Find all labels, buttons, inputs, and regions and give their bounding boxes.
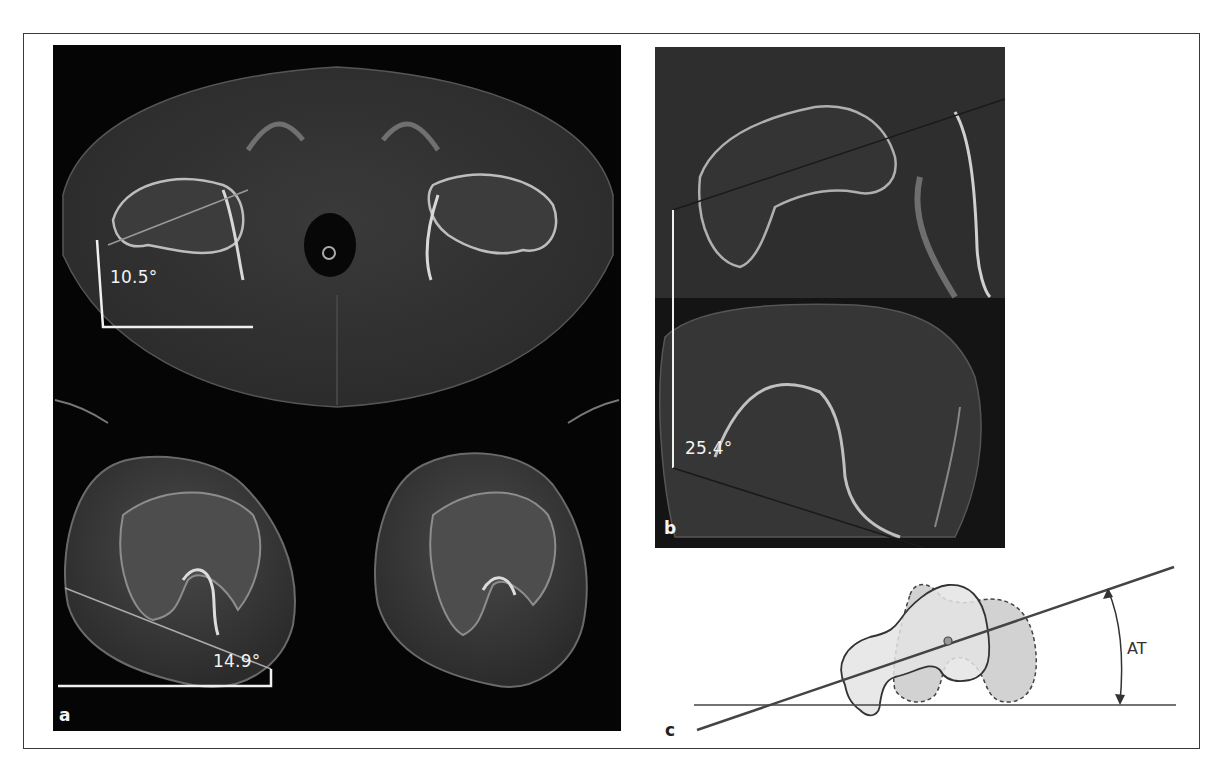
antetorsion-arc	[1108, 590, 1122, 703]
panel-label-c: c	[665, 720, 675, 740]
panel-a-ct-hips-knees: 10.5° 14.9° a	[53, 45, 621, 731]
panel-label-a: a	[59, 705, 70, 725]
ct-scan-image	[53, 45, 621, 731]
panel-b-superimposed-ct: 25.4° b	[655, 47, 1005, 548]
panel-label-b: b	[664, 518, 676, 538]
antetorsion-label: AT	[1127, 639, 1146, 658]
antetorsion-diagram	[650, 555, 1190, 740]
antetorsion-angle-label: 25.4°	[685, 438, 732, 458]
panel-c-antetorsion-schematic: AT c	[650, 555, 1190, 740]
superimposed-ct-image	[655, 47, 1005, 548]
femoral-head-center-point	[944, 637, 952, 645]
hip-angle-label: 10.5°	[110, 267, 157, 287]
knee-angle-label: 14.9°	[213, 651, 260, 671]
